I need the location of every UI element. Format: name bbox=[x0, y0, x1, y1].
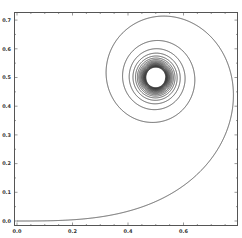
y-tick-label: 0.4 bbox=[2, 103, 11, 109]
y-tick-label: 0.5 bbox=[2, 74, 11, 80]
y-tick-label: 0.3 bbox=[2, 132, 11, 138]
spiral-curve bbox=[17, 16, 233, 221]
x-tick-label: 0.2 bbox=[68, 228, 77, 234]
y-tick-label: 0.7 bbox=[2, 17, 11, 23]
y-tick-label: 0.1 bbox=[2, 189, 11, 195]
x-tick-label: 0.6 bbox=[179, 228, 188, 234]
axis-ticks bbox=[15, 13, 238, 226]
x-tick-label: 0.0 bbox=[13, 228, 22, 234]
y-tick-label: 0.2 bbox=[2, 160, 11, 166]
y-tick-label: 0.0 bbox=[2, 218, 11, 224]
axis-tick-labels: 0.00.20.40.60.00.10.20.30.40.50.60.7 bbox=[2, 17, 188, 234]
plot-frame bbox=[15, 13, 238, 226]
x-tick-label: 0.4 bbox=[124, 228, 133, 234]
y-tick-label: 0.6 bbox=[2, 46, 11, 52]
euler-spiral-chart: 0.00.20.40.60.00.10.20.30.40.50.60.7 bbox=[0, 0, 242, 238]
